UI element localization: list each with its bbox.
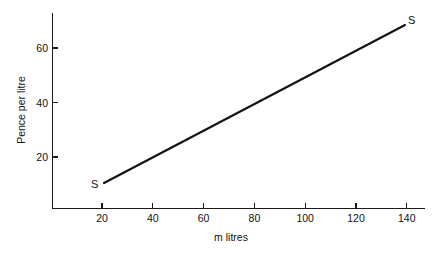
series-label-start: S (91, 178, 98, 190)
y-axis-title: Pence per litre (15, 76, 27, 144)
supply-curve-chart: 20 40 60 20 40 60 80 100 120 140 m litre… (0, 0, 447, 253)
x-tick-label-120: 120 (347, 212, 365, 224)
y-tick-label-60: 60 (36, 42, 48, 54)
x-tick-label-40: 40 (147, 212, 159, 224)
y-tick-label-20: 20 (36, 151, 48, 163)
chart-canvas: 20 40 60 20 40 60 80 100 120 140 m litre… (0, 0, 447, 253)
x-tick-label-80: 80 (249, 212, 261, 224)
x-tick-label-100: 100 (296, 212, 314, 224)
x-tick-label-60: 60 (198, 212, 210, 224)
x-tick-label-20: 20 (96, 212, 108, 224)
series-label-end: S (408, 14, 415, 26)
x-axis-title: m litres (214, 231, 248, 243)
y-tick-label-40: 40 (36, 97, 48, 109)
supply-line-series (104, 25, 405, 183)
x-tick-label-140: 140 (398, 212, 416, 224)
